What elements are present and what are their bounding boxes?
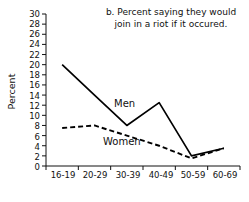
x-axis-ticks <box>46 166 240 170</box>
y-axis-ticks <box>42 14 46 166</box>
chart-figure: b. Percent saying they would join in a r… <box>0 0 249 202</box>
series-line-men <box>62 65 224 156</box>
plot-area <box>0 0 249 202</box>
